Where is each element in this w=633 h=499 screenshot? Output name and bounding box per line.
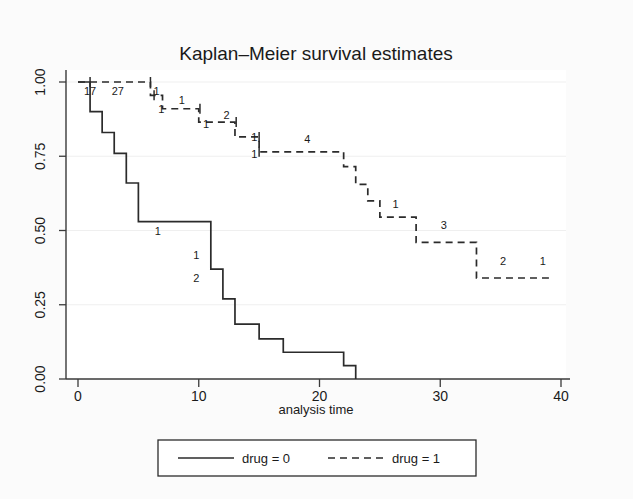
x-axis-title: analysis time	[278, 402, 353, 417]
at-risk-label: 1	[193, 249, 199, 261]
at-risk-label: 3	[441, 219, 447, 231]
kaplan-meier-plot: Kaplan–Meier survival estimates 0.000.25…	[0, 0, 633, 499]
at-risk-label: 1	[251, 131, 257, 143]
chart-legend[interactable]: drug = 0drug = 1	[158, 440, 476, 476]
at-risk-label: 2	[500, 255, 506, 267]
at-risk-label: 1	[203, 118, 209, 130]
at-risk-label: 1	[251, 148, 257, 160]
x-tick-label: 0	[74, 388, 82, 404]
chart-title: Kaplan–Meier survival estimates	[179, 43, 453, 64]
at-risk-label: 2	[223, 109, 229, 121]
y-tick-label: 1.00	[32, 68, 48, 95]
at-risk-label: 1	[393, 198, 399, 210]
x-tick-label: 30	[432, 388, 448, 404]
legend-label[interactable]: drug = 0	[242, 451, 290, 466]
x-tick-label: 40	[553, 388, 569, 404]
at-risk-label: 1	[158, 103, 164, 115]
at-risk-label: 1	[179, 94, 185, 106]
y-tick-label: 0.25	[32, 291, 48, 318]
y-tick-label: 0.00	[32, 365, 48, 392]
legend-label[interactable]: drug = 1	[392, 451, 440, 466]
at-risk-label: 1	[153, 85, 159, 97]
at-risk-label: 4	[304, 133, 310, 145]
y-tick-label: 0.50	[32, 217, 48, 244]
at-risk-label: 17	[84, 85, 96, 97]
plot-panel-background	[66, 70, 566, 379]
at-risk-label: 1	[155, 225, 161, 237]
y-tick-label: 0.75	[32, 142, 48, 169]
at-risk-label: 27	[112, 85, 124, 97]
at-risk-label: 1	[540, 255, 546, 267]
x-tick-label: 10	[191, 388, 207, 404]
chart-figure: Kaplan–Meier survival estimates 0.000.25…	[0, 0, 633, 499]
at-risk-label: 2	[193, 272, 199, 284]
